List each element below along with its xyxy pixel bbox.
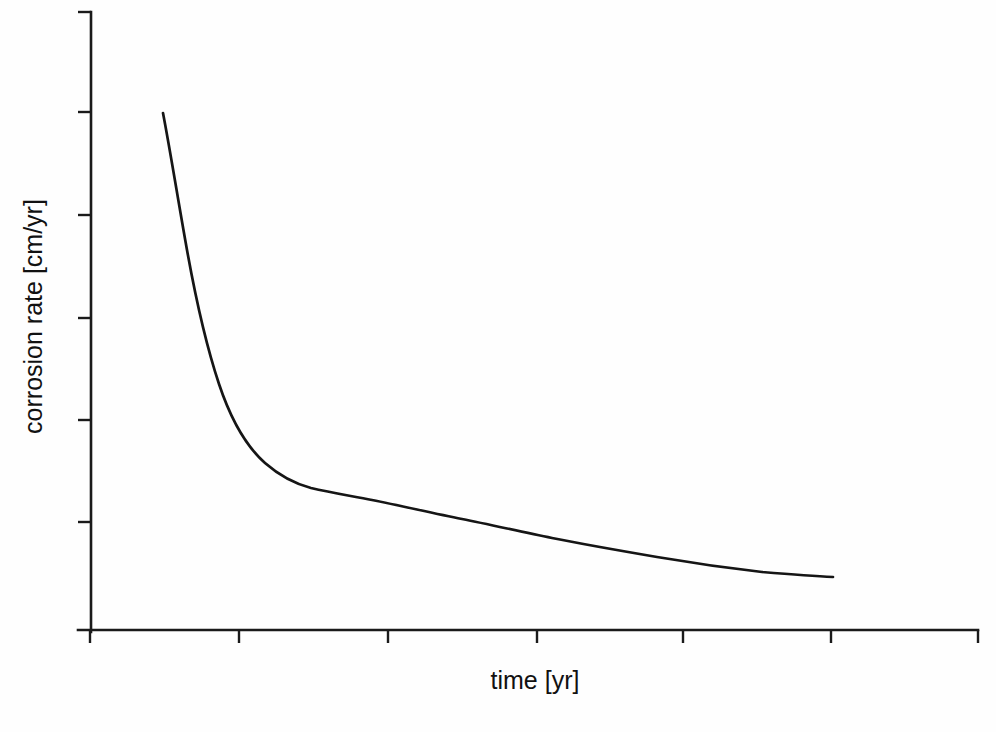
corrosion-rate-curve bbox=[163, 113, 833, 577]
figure-canvas: corrosion rate [cm/yr] time [yr] bbox=[0, 0, 996, 732]
x-axis-ticks bbox=[90, 630, 978, 643]
y-axis-ticks bbox=[78, 12, 91, 522]
chart-plot-area bbox=[0, 0, 996, 732]
